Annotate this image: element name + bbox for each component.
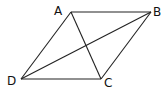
- diagonal-bd: [21, 12, 151, 79]
- vertex-label-b: B: [153, 5, 161, 19]
- side-bc: [101, 12, 151, 79]
- vertex-label-a: A: [54, 4, 63, 18]
- vertex-label-d: D: [7, 74, 16, 88]
- side-da: [21, 12, 71, 79]
- parallelogram-diagram: A B C D: [0, 0, 168, 93]
- vertex-label-c: C: [104, 76, 112, 90]
